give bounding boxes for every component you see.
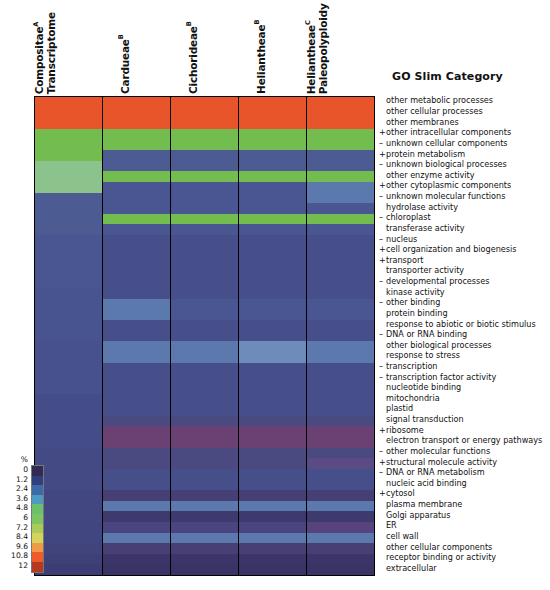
row-label: cell wall: [379, 532, 550, 543]
heatmap-cell: [171, 469, 238, 480]
heatmap-cell: [171, 256, 238, 267]
heatmap-cell: [171, 458, 238, 469]
heatmap-cell: [307, 352, 374, 363]
heatmap-cell: [307, 224, 374, 235]
legend-swatch: [32, 562, 43, 572]
heatmap-cell: [103, 490, 170, 501]
row-label: +ribosome: [379, 425, 550, 436]
heatmap-cell: [171, 554, 238, 565]
heatmap-cell: [239, 501, 306, 512]
column-header-text: CichorideaeB: [185, 22, 199, 94]
heatmap-cell: [35, 299, 102, 310]
heatmap-cell: [171, 490, 238, 501]
row-label: –unknown molecular functions: [379, 192, 550, 203]
heatmap-cell: [239, 511, 306, 522]
legend-tick: 1.2: [4, 475, 28, 485]
row-label: plasma membrane: [379, 500, 550, 511]
heatmap-cell: [171, 543, 238, 554]
heatmap-cell: [307, 235, 374, 246]
row-label: plastid: [379, 404, 550, 415]
column-header-superscript: A: [31, 21, 39, 26]
heatmap-cell: [35, 320, 102, 331]
heatmap-cell: [307, 118, 374, 129]
heatmap-cell: [307, 533, 374, 544]
legend-tick: 3.6: [4, 494, 28, 504]
heatmap-cell: [103, 437, 170, 448]
heatmap-cell: [239, 118, 306, 129]
heatmap-cell: [35, 97, 102, 108]
legend-swatch: [32, 504, 43, 514]
heatmap-cell: [35, 437, 102, 448]
heatmap-cell: [103, 288, 170, 299]
column-header-compositae-transcriptome: CompositaeATranscriptome: [34, 0, 102, 94]
column-header-heliantheae: HeliantheaeB: [239, 0, 307, 94]
heatmap-cell: [239, 161, 306, 172]
heatmap-cell: [35, 150, 102, 161]
heatmap-cell: [103, 299, 170, 310]
heatmap-column-heliantheae: [239, 97, 307, 575]
heatmap-cell: [239, 490, 306, 501]
heatmap-cell: [35, 490, 102, 501]
heatmap-cell: [103, 246, 170, 257]
heatmap-cell: [307, 246, 374, 257]
heatmap-cell: [103, 203, 170, 214]
row-label: ER: [379, 521, 550, 532]
heatmap-cell: [171, 118, 238, 129]
legend-swatch: [32, 524, 43, 534]
heatmap-cell: [103, 267, 170, 278]
row-label: –unknown cellular components: [379, 138, 550, 149]
heatmap-cell: [171, 224, 238, 235]
heatmap-cell: [239, 108, 306, 119]
column-header-cardueae: CardueaeB: [102, 0, 170, 94]
heatmap-cell: [35, 416, 102, 427]
column-header-heliantheae-paleopolyploidy: HeliantheaeCPaleopolyploidy: [307, 0, 375, 94]
column-header-superscript: B: [117, 34, 125, 39]
row-label: other membranes: [379, 117, 550, 128]
heatmap-cell: [239, 214, 306, 225]
heatmap-cell: [239, 193, 306, 204]
column-header-text: HeliantheaeCPaleopolyploidy: [304, 3, 329, 94]
heatmap-cell: [35, 278, 102, 289]
heatmap-cell: [171, 288, 238, 299]
heatmap-cell: [239, 341, 306, 352]
heatmap-cell: [239, 479, 306, 490]
heatmap-cell: [307, 150, 374, 161]
heatmap-cell: [171, 246, 238, 257]
heatmap-cell: [239, 278, 306, 289]
heatmap-cell: [307, 203, 374, 214]
heatmap-cell: [35, 256, 102, 267]
heatmap-cell: [239, 224, 306, 235]
row-label: +structural molecule activity: [379, 457, 550, 468]
legend-tick: 0: [4, 465, 28, 475]
heatmap-cell: [307, 139, 374, 150]
row-label: +cell organization and biogenesis: [379, 245, 550, 256]
heatmap-cell: [239, 203, 306, 214]
heatmap-cell: [171, 416, 238, 427]
heatmap-column-heliantheae-paleopolyploidy: [307, 97, 374, 575]
heatmap-cell: [35, 118, 102, 129]
row-label: –DNA or RNA binding: [379, 330, 550, 341]
heatmap-cell: [171, 479, 238, 490]
heatmap-cell: [239, 299, 306, 310]
go-slim-category-title: GO Slim Category: [392, 70, 503, 83]
heatmap-cell: [103, 533, 170, 544]
column-header-line: CompositaeA: [31, 12, 45, 94]
heatmap-cell: [35, 161, 102, 172]
row-labels: other metabolic processesother cellular …: [379, 96, 550, 576]
heatmap-cell: [239, 533, 306, 544]
heatmap-cell: [239, 139, 306, 150]
row-label: nucleic acid binding: [379, 478, 550, 489]
row-label: –nucleus: [379, 234, 550, 245]
row-label: other cellular components: [379, 542, 550, 553]
heatmap-cell: [103, 479, 170, 490]
heatmap-cell: [171, 203, 238, 214]
heatmap-cell: [35, 341, 102, 352]
heatmap-cell: [307, 522, 374, 533]
heatmap-cell: [307, 384, 374, 395]
row-label-prefix: –: [379, 297, 386, 309]
heatmap-column-compositae-transcriptome: [35, 97, 103, 575]
heatmap-cell: [307, 469, 374, 480]
column-header-text: HeliantheaeB: [253, 20, 267, 94]
heatmap-cell: [307, 331, 374, 342]
heatmap-cell: [171, 437, 238, 448]
